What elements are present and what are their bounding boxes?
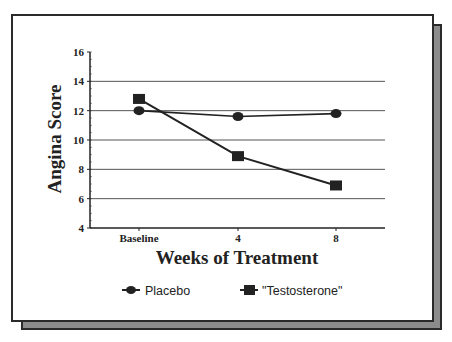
circle-marker-icon (126, 286, 136, 294)
x-tick-label: Baseline (119, 232, 158, 244)
axes (87, 52, 385, 231)
y-tick-label: 14 (73, 75, 85, 87)
series-lines (133, 94, 342, 191)
x-axis-label: Weeks of Treatment (156, 247, 319, 268)
square-marker-icon (133, 94, 145, 104)
x-tick-label: 8 (333, 232, 339, 244)
legend-label-placebo: Placebo (145, 284, 190, 298)
y-axis-label: Angina Score (44, 85, 65, 194)
circle-marker-icon (233, 112, 244, 121)
square-marker-icon (244, 285, 255, 295)
chart-svg: 46810121416 Baseline48 Angina Score Week… (0, 0, 452, 342)
y-tick-label: 8 (79, 163, 85, 175)
legend-item-placebo: Placebo (122, 284, 190, 298)
x-tick-labels: Baseline48 (119, 232, 339, 244)
legend-item-testosterone: "Testosterone" (240, 284, 342, 298)
y-tick-labels: 46810121416 (73, 46, 85, 234)
y-tick-label: 4 (79, 222, 85, 234)
y-tick-label: 12 (73, 105, 85, 117)
square-marker-icon (232, 151, 244, 161)
legend-label-testosterone: "Testosterone" (262, 284, 342, 298)
square-marker-icon (330, 180, 342, 190)
y-tick-label: 10 (73, 134, 85, 146)
circle-marker-icon (134, 106, 145, 115)
legend: Placebo "Testosterone" (122, 284, 342, 298)
y-tick-label: 6 (79, 193, 85, 205)
y-tick-label: 16 (73, 46, 85, 58)
x-tick-label: 4 (235, 232, 241, 244)
circle-marker-icon (331, 109, 342, 118)
